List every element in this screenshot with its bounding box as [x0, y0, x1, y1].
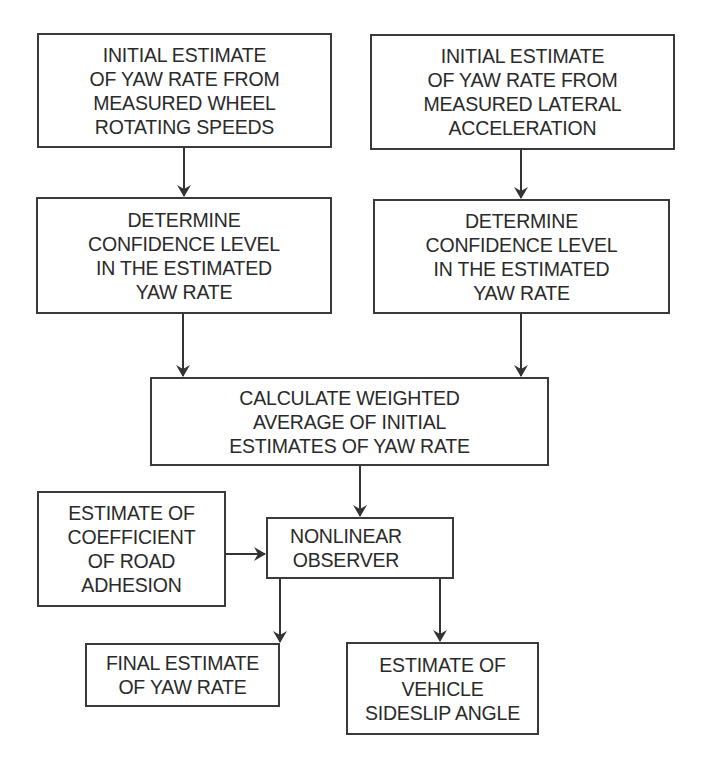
- box-nonlinear-observer: NONLINEAR OBSERVER: [266, 517, 454, 579]
- box-wheel-speed-estimate: INITIAL ESTIMATE OF YAW RATE FROM MEASUR…: [37, 33, 332, 148]
- box-label: ESTIMATE OF COEFFICIENT OF ROAD ADHESION: [68, 501, 196, 597]
- box-confidence-left: DETERMINE CONFIDENCE LEVEL IN THE ESTIMA…: [36, 197, 332, 314]
- box-road-adhesion: ESTIMATE OF COEFFICIENT OF ROAD ADHESION: [37, 491, 226, 607]
- box-label: FINAL ESTIMATE OF YAW RATE: [106, 651, 259, 699]
- box-final-yaw-estimate: FINAL ESTIMATE OF YAW RATE: [85, 643, 280, 707]
- box-label: ESTIMATE OF VEHICLE SIDESLIP ANGLE: [365, 653, 520, 725]
- box-confidence-right: DETERMINE CONFIDENCE LEVEL IN THE ESTIMA…: [373, 199, 670, 314]
- box-label: INITIAL ESTIMATE OF YAW RATE FROM MEASUR…: [90, 43, 280, 139]
- box-label: NONLINEAR OBSERVER: [290, 524, 402, 572]
- box-label: INITIAL ESTIMATE OF YAW RATE FROM MEASUR…: [424, 44, 622, 140]
- box-lateral-accel-estimate: INITIAL ESTIMATE OF YAW RATE FROM MEASUR…: [370, 34, 675, 150]
- box-weighted-average: CALCULATE WEIGHTED AVERAGE OF INITIAL ES…: [150, 377, 549, 466]
- box-label: CALCULATE WEIGHTED AVERAGE OF INITIAL ES…: [229, 386, 470, 458]
- box-label: DETERMINE CONFIDENCE LEVEL IN THE ESTIMA…: [426, 209, 618, 305]
- box-label: DETERMINE CONFIDENCE LEVEL IN THE ESTIMA…: [88, 208, 280, 304]
- box-sideslip-estimate: ESTIMATE OF VEHICLE SIDESLIP ANGLE: [346, 642, 539, 735]
